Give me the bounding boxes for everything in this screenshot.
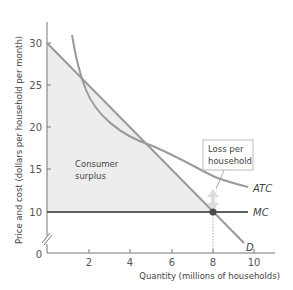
x-ticks xyxy=(89,249,254,253)
consumer-surplus-label-line1: Consumer xyxy=(75,159,119,169)
x-tick-label: 4 xyxy=(127,257,133,268)
x-tick-label: 8 xyxy=(210,257,216,268)
x-tick-label: 10 xyxy=(248,257,261,268)
y-tick-label: 30 xyxy=(29,38,42,49)
atc-label: ATC xyxy=(252,183,272,194)
chart: 30 25 20 15 10 0 2 4 6 8 10 Quantity (mi… xyxy=(0,0,293,290)
y-tick-label: 15 xyxy=(29,164,42,175)
y-tick-label: 25 xyxy=(29,80,42,91)
origin-label: 0 xyxy=(36,249,42,260)
y-tick-label: 10 xyxy=(29,207,42,218)
y-tick-label: 20 xyxy=(29,122,42,133)
y-axis-title: Price and cost (dollars per household pe… xyxy=(14,36,24,244)
x-tick-label: 6 xyxy=(169,257,175,268)
mc-label: MC xyxy=(253,207,269,218)
consumer-surplus-label-line2: surplus xyxy=(75,171,106,181)
loss-label-line2: household xyxy=(208,156,252,166)
x-tick-label: 2 xyxy=(86,257,92,268)
equilibrium-point xyxy=(209,208,216,215)
x-axis-title: Quantity (millions of households) xyxy=(139,271,280,281)
demand-label: D xyxy=(246,242,254,253)
loss-label-line1: Loss per xyxy=(208,144,244,154)
